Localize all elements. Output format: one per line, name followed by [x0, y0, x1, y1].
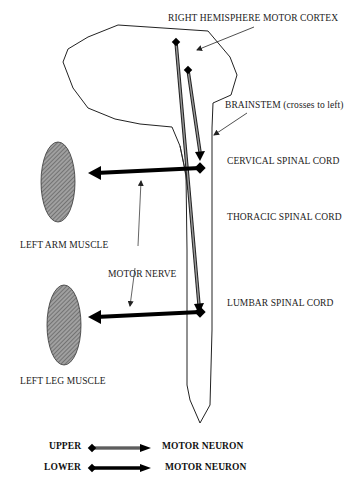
left-arm-muscle [41, 142, 75, 222]
upper-motor-neuron-cervical [184, 66, 205, 161]
label-leg-muscle: LEFT LEG MUSCLE [20, 376, 106, 386]
legend-lower-arrow [88, 464, 151, 472]
brain-spinal-cord-outline [63, 25, 237, 423]
legend-lower-description: MOTOR NEURON [165, 462, 247, 472]
label-motor-nerve: MOTOR NERVE [108, 269, 177, 279]
left-leg-muscle [47, 285, 81, 365]
motor-nerve-pointer-up [138, 181, 141, 246]
brainstem-pointer [214, 113, 247, 135]
label-cervical: CERVICAL SPINAL CORD [227, 156, 339, 166]
label-arm-muscle: LEFT ARM MUSCLE [20, 240, 108, 250]
label-thoracic: THORACIC SPINAL CORD [227, 212, 342, 222]
legend-upper-arrow [88, 444, 151, 452]
legend-upper-label: UPPER [49, 441, 81, 451]
legend-lower-label: LOWER [44, 462, 81, 472]
label-motor-cortex: RIGHT HEMISPHERE MOTOR CORTEX [168, 13, 338, 23]
label-lumbar: LUMBAR SPINAL CORD [227, 298, 334, 308]
legend-upper-description: MOTOR NEURON [162, 441, 244, 451]
lower-motor-neuron-leg [88, 306, 206, 324]
label-brainstem: BRAINSTEM (crosses to left) [225, 100, 344, 110]
